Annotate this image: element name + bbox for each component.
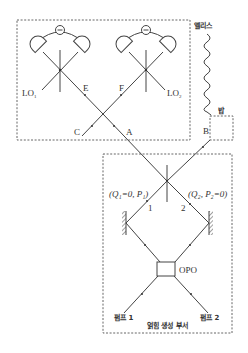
mode2-state: (Q₂, P₂=0) [188, 189, 227, 199]
beam-label-f: F [119, 83, 124, 93]
opo-label: OPO [179, 265, 198, 275]
mirror-left [122, 211, 126, 235]
pump1-label: 펌프 1 [114, 313, 133, 322]
lo1-label: LO1 [22, 88, 37, 99]
beam-b [167, 140, 210, 181]
quantum-channel-wave [204, 34, 211, 115]
bob-label: 밥 [218, 106, 225, 115]
setup-diagram: LO1 LO2 E F C A B 1 2 (Q₁=0, P₁) (Q₂, P₂… [0, 0, 248, 353]
opo-crystal [157, 262, 175, 276]
mode1-state: (Q₁=0, P₁) [109, 189, 148, 199]
beam-label-2: 2 [181, 203, 186, 213]
pump2-label: 펌프 2 [200, 313, 219, 322]
beam-label-b: B [203, 126, 209, 136]
mirror-right [209, 211, 213, 235]
beam-a [103, 114, 167, 181]
entanglement-source-label: 얽힘 생성 부서 [147, 321, 188, 330]
beam-label-c: C [74, 127, 80, 137]
beam-label-1: 1 [148, 203, 153, 213]
beam-label-a: A [126, 127, 133, 137]
beam-c [82, 114, 103, 136]
alice-label: 앨리스 [194, 21, 213, 30]
homodyne-detector-right [103, 26, 179, 115]
homodyne-detector-left [27, 26, 103, 115]
bob-box [210, 116, 233, 140]
beam-label-e: E [83, 83, 89, 93]
lo2-label: LO2 [167, 88, 182, 99]
